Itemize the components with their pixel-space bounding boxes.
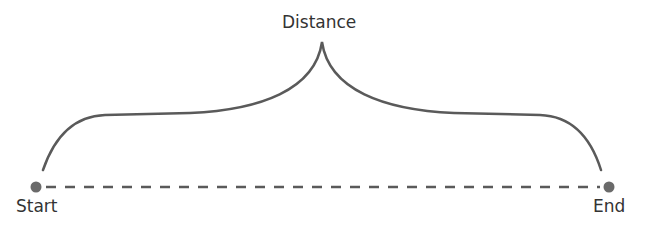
start-point: [31, 182, 42, 193]
end-point: [604, 182, 615, 193]
distance-label: Distance: [282, 12, 356, 32]
start-label: Start: [16, 196, 58, 216]
distance-diagram: [0, 0, 651, 231]
distance-brace: [43, 42, 601, 170]
end-label: End: [593, 196, 625, 216]
